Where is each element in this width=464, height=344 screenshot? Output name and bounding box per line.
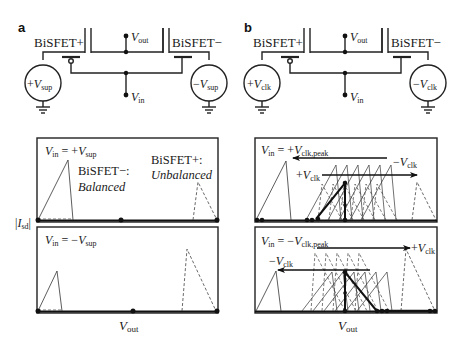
state-dot <box>343 218 348 223</box>
panel-a-letter: a <box>18 20 26 35</box>
ground-icon <box>255 107 269 113</box>
bisfet-minus-label: BiSFET− <box>172 35 222 50</box>
bisfet-plus-label: BiSFET+ <box>253 35 303 50</box>
iv-curve-dashed <box>322 253 356 311</box>
ground-icon <box>421 107 435 113</box>
vin-terminal <box>343 93 348 98</box>
plot-a-bottom: Vin = −Vsup <box>36 227 220 314</box>
note-balanced-state: Balanced <box>78 180 126 194</box>
iv-curve <box>302 272 337 311</box>
state-dot <box>433 309 438 314</box>
iv-curve-dashed <box>333 253 367 311</box>
y-axis-label: |Isd| <box>15 216 31 231</box>
plot-a-top: Vin = +Vsup BiSFET−: Balanced BiSFET+: U… <box>36 138 220 223</box>
vin-label: Vin <box>131 90 145 105</box>
vout-label: Vout <box>350 30 368 45</box>
x-axis-label-b: Vout <box>338 318 358 334</box>
iv-curve-dashed <box>344 253 378 311</box>
iv-curve-dashed <box>311 253 345 311</box>
iv-curve <box>313 272 348 311</box>
source-plus-label: +Vclk <box>247 77 271 92</box>
plot-b-top: Vin = +Vclk,peak −Vclk +Vclk <box>255 138 437 222</box>
state-dot <box>255 218 260 223</box>
panel-b-letter: b <box>244 20 252 35</box>
panel-a: a <box>15 20 227 334</box>
arrow-label-minus-vclk: −Vclk <box>269 254 293 269</box>
state-dot <box>310 218 315 223</box>
state-dot <box>343 181 348 186</box>
vin-terminal <box>124 93 129 98</box>
bisfet-plus-label: BiSFET+ <box>34 35 84 50</box>
state-dot <box>36 309 41 314</box>
iv-curve-dashed <box>401 249 435 311</box>
state-dot <box>260 218 265 223</box>
source-plus-label: +Vsup <box>27 77 52 92</box>
iv-curve <box>38 271 62 311</box>
vout-terminal <box>124 34 129 39</box>
vin-label: Vin <box>350 90 364 105</box>
wire <box>310 28 382 52</box>
node <box>343 50 347 54</box>
state-dot <box>305 218 310 223</box>
source-minus-label: −Vclk <box>413 77 437 92</box>
ground-icon <box>202 107 216 113</box>
inverter-bubble <box>69 59 74 64</box>
plot-b-bottom: Vin = −Vclk,peak +Vclk −Vclk <box>255 227 437 313</box>
iv-curve-dashed <box>355 253 389 311</box>
iv-curve <box>256 161 291 220</box>
iv-curve <box>357 272 392 311</box>
arrow-label-plus-vclk: +Vclk <box>411 241 435 256</box>
wire <box>71 58 182 73</box>
note-unbalanced-state: Unbalanced <box>151 168 213 182</box>
arrow-label-minus-vclk: −Vclk <box>393 155 417 170</box>
state-dot <box>316 217 321 222</box>
state-dot <box>215 218 220 223</box>
state-dot <box>428 309 433 314</box>
source-minus-label: −Vsup <box>193 77 218 92</box>
iv-curve <box>335 272 370 311</box>
state-dot <box>131 309 136 314</box>
state-dot <box>343 291 347 295</box>
iv-curve-unbalanced <box>193 182 217 220</box>
iv-curve-family-solid <box>302 272 392 311</box>
state-dot <box>343 309 348 314</box>
wire <box>290 58 401 73</box>
condition-label: Vin = +Vclk,peak <box>261 143 328 158</box>
node <box>124 71 128 75</box>
iv-curve-dashed <box>182 249 216 311</box>
state-dot <box>375 309 380 314</box>
panel-b: b <box>244 20 446 334</box>
iv-curve <box>256 271 281 311</box>
iv-curve <box>361 165 396 220</box>
state-dot <box>343 270 348 275</box>
x-axis-label-a: Vout <box>119 318 139 334</box>
condition-label: Vin = −Vsup <box>45 233 97 248</box>
wire <box>91 28 163 52</box>
iv-curve-balanced <box>38 160 73 220</box>
condition-label: Vin = −Vclk,peak <box>261 234 328 249</box>
note-balanced-title: BiSFET−: <box>78 164 130 178</box>
state-dot <box>215 309 220 314</box>
node <box>124 50 128 54</box>
state-dot <box>385 309 390 314</box>
state-dot <box>36 218 41 223</box>
state-dot <box>343 203 347 207</box>
vout-label: Vout <box>131 30 149 45</box>
state-dot <box>119 218 124 223</box>
iv-curve <box>324 272 359 311</box>
iv-curve-dashed <box>412 182 436 220</box>
ground-icon <box>36 107 50 113</box>
note-unbalanced-title: BiSFET+: <box>151 153 203 167</box>
state-dot <box>380 309 385 314</box>
iv-curve <box>346 272 381 311</box>
arrow-label-plus-vclk: +Vclk <box>296 168 320 183</box>
bisfet-figure: a <box>0 0 464 344</box>
bisfet-minus-label: BiSFET− <box>391 35 441 50</box>
vout-terminal <box>343 34 348 39</box>
condition-label: Vin = +Vsup <box>45 144 97 159</box>
node <box>343 71 347 75</box>
iv-curve <box>350 165 385 220</box>
inverter-bubble <box>288 59 293 64</box>
